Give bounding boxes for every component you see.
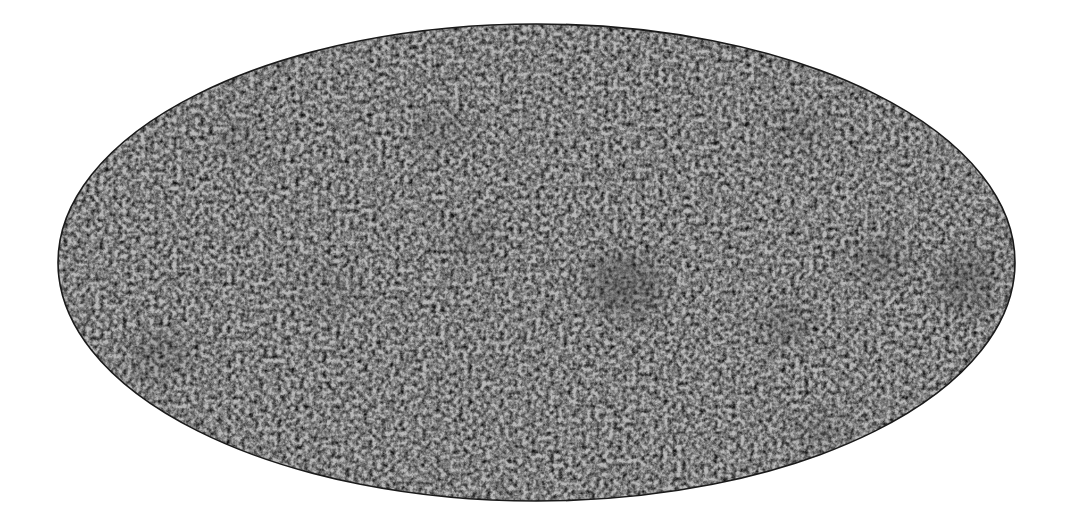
- mollweide-sky-map: [0, 0, 1069, 525]
- dark-region: [776, 114, 824, 146]
- dark-region: [218, 124, 262, 156]
- image-canvas: [0, 0, 1069, 525]
- dark-region: [763, 309, 807, 341]
- dark-region: [130, 335, 190, 375]
- dark-region: [306, 272, 354, 308]
- dark-region: [796, 416, 844, 444]
- dark-region: [444, 222, 496, 258]
- dark-region: [587, 253, 663, 317]
- dark-region: [935, 250, 995, 310]
- dark-region: [854, 238, 906, 282]
- dark-region: [410, 116, 470, 144]
